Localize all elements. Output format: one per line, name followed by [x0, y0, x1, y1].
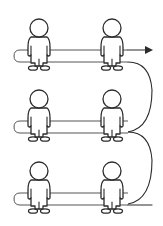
person-head — [30, 90, 48, 108]
connector-curve-row2-row3 — [128, 132, 152, 204]
person-icon — [101, 162, 123, 213]
person-foot-right — [114, 209, 123, 213]
person-foot-left — [102, 66, 111, 70]
person-foot-right — [114, 137, 123, 141]
person-foot-right — [41, 66, 50, 70]
person-icon — [28, 90, 50, 141]
person-foot-right — [41, 137, 50, 141]
person-foot-left — [102, 209, 111, 213]
person-head — [30, 19, 48, 37]
person-head — [30, 162, 48, 180]
person-foot-left — [29, 66, 38, 70]
arrow-right-icon — [145, 46, 153, 54]
person-foot-left — [29, 137, 38, 141]
person-head — [103, 162, 121, 180]
person-icon — [101, 90, 123, 141]
queue-diagram — [0, 0, 163, 226]
person-foot-right — [41, 209, 50, 213]
person-foot-left — [29, 209, 38, 213]
person-head — [103, 90, 121, 108]
person-icon — [28, 162, 50, 213]
person-foot-left — [102, 137, 111, 141]
person-foot-right — [114, 66, 123, 70]
connector-curve-row1-row2 — [128, 62, 152, 132]
queue-row-2 — [14, 90, 128, 141]
person-icon — [28, 19, 50, 70]
person-head — [103, 19, 121, 37]
queue-row-3 — [14, 162, 152, 213]
person-icon — [101, 19, 123, 70]
